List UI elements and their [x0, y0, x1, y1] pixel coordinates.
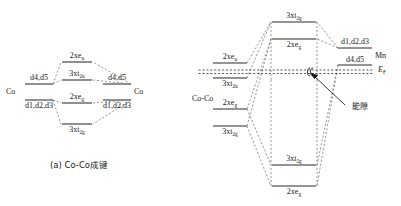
left-diagram-left-upper-label: d4,d5 — [30, 74, 48, 82]
left-diagram-left-atom-label: Co — [6, 88, 15, 96]
right-envelope-lower-box — [271, 80, 317, 186]
energy-gap-label: 能隙 — [352, 103, 368, 111]
right-co-label-3: 3xt2g — [222, 128, 238, 136]
left-diagram-left-lower-label: d1,d2,d3 — [25, 102, 53, 110]
left-diagram-right-lower-label: d1,d2,d3 — [103, 102, 131, 110]
center-bottom-label-1: 2xeg — [287, 188, 301, 196]
right-diagram-left-atom-label: Co-Co — [192, 95, 213, 103]
mn-lower-level-label: d4,d5 — [346, 56, 364, 64]
figure-caption-a: (a) Co-Co成键 — [50, 158, 108, 170]
left-diagram-right-atom-label: Co — [134, 88, 143, 96]
energy-gap-leader-arrow — [311, 73, 345, 105]
center-bottom-label-0: 3xt2g — [286, 155, 302, 163]
left-mo-label-1: 3xt2u — [69, 70, 85, 78]
left-mo-label-0: 2xeu — [70, 52, 84, 60]
left-envelope-left — [53, 62, 61, 124]
right-envelope-mn-up — [317, 22, 338, 48]
fermi-level-line — [199, 70, 374, 74]
right-envelope-co-mid — [247, 39, 271, 126]
fermi-level-label: EF — [378, 66, 386, 74]
right-diagram-right-atom-label: Mn — [375, 52, 386, 60]
mn-upper-level-label: d1,d2,d3 — [341, 38, 369, 46]
figure-canvas: Co d4,d5 d1,d2,d3 Co d4,d5 d1,d2,d3 2xeu… — [0, 0, 401, 206]
diagram-vector-layer — [0, 0, 401, 206]
center-top-label-1: 2xeg — [287, 41, 301, 49]
left-mo-label-3: 3xt2g — [69, 126, 85, 134]
left-mo-label-2: 2xeg — [70, 93, 84, 101]
center-top-label-0: 3xt2g — [286, 12, 302, 20]
right-co-label-1: 3xt2u — [222, 80, 238, 88]
right-co-label-2: 2xeg — [223, 99, 237, 107]
left-envelope-right — [93, 62, 131, 124]
left-diagram-right-upper-label: d4,d5 — [108, 74, 126, 82]
right-envelope-co-down — [247, 109, 271, 186]
right-envelope-mn-down — [317, 65, 338, 186]
right-co-label-0: 2xeu — [223, 53, 237, 61]
